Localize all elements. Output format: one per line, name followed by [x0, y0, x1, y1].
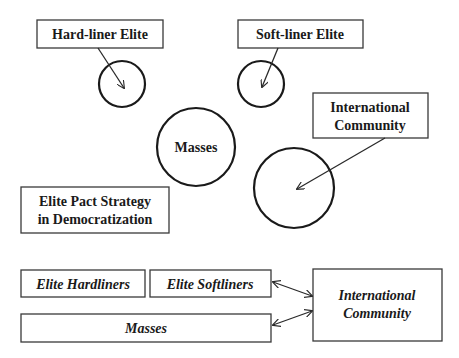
softliner-elite-label: Soft-liner Elite	[256, 27, 344, 42]
international-bottom-line2: Community	[343, 306, 411, 321]
international-community-bottom-box	[313, 269, 442, 341]
international-community-circle	[254, 148, 334, 228]
international-bottom-line1: International	[337, 288, 415, 303]
elite-softliners-label: Elite Softliners	[166, 277, 254, 292]
elite-hardliners-label: Elite Hardliners	[35, 277, 130, 292]
elite-pact-diagram: Hard-liner Elite Soft-liner Elite Masses…	[0, 0, 459, 358]
international-label-line2: Community	[334, 118, 406, 133]
international-label-line1: International	[330, 100, 409, 115]
title-line2: in Democratization	[38, 212, 153, 227]
masses-label: Masses	[175, 140, 218, 155]
masses-international-double-arrow-icon	[273, 311, 312, 325]
masses-group: Masses	[157, 108, 235, 186]
title-line1: Elite Pact Strategy	[39, 194, 151, 209]
international-arrow-icon	[297, 138, 385, 189]
softliners-international-double-arrow-icon	[273, 282, 312, 296]
bottom-diagram: Elite Hardliners Elite Softliners Masses…	[21, 269, 442, 342]
international-community-group: International Community	[254, 93, 428, 228]
hardliner-elite-group: Hard-liner Elite	[37, 20, 163, 107]
softliner-elite-circle	[238, 61, 284, 107]
hardliner-arrow-icon	[98, 48, 124, 88]
hardliner-elite-label: Hard-liner Elite	[52, 27, 148, 42]
title-group: Elite Pact Strategy in Democratization	[21, 187, 169, 233]
masses-bottom-label: Masses	[124, 321, 168, 336]
